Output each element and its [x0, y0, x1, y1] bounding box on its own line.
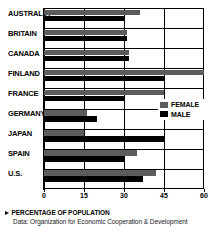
bar-male-spain	[44, 156, 124, 161]
x-tick-label-15: 15	[80, 192, 88, 199]
bar-male-britain	[44, 36, 127, 41]
bar-female-australia	[44, 10, 140, 15]
x-tick-label-0: 0	[42, 192, 46, 199]
row-separator	[44, 28, 204, 29]
chart-footer: PERCENTAGE OF POPULATION Data: Organizat…	[5, 209, 215, 225]
row-separator	[44, 129, 204, 130]
bar-row: SPAIN	[6, 149, 204, 169]
x-tick-label-60: 60	[200, 192, 208, 199]
axis-caption-text: PERCENTAGE OF POPULATION	[12, 209, 110, 216]
chart-legend: FEMALE MALE	[158, 99, 206, 120]
row-separator	[44, 149, 204, 150]
legend-item-male[interactable]: MALE	[160, 110, 206, 119]
bar-male-finland	[44, 76, 164, 81]
axis-caption-row: PERCENTAGE OF POPULATION	[5, 209, 215, 216]
row-separator	[44, 48, 204, 49]
plot-area: AUSTRALIABRITAINCANADAFINLANDFRANCEGERMA…	[6, 8, 204, 189]
bar-row: JAPAN	[6, 129, 204, 149]
category-label-france: FRANCE	[8, 89, 38, 98]
legend-label-male: MALE	[171, 111, 190, 118]
bar-male-canada	[44, 56, 129, 61]
male-swatch-icon	[160, 111, 168, 117]
caret-right-icon	[5, 211, 9, 215]
bar-female-france	[44, 90, 164, 95]
bar-female-canada	[44, 50, 129, 55]
bar-female-spain	[44, 150, 137, 155]
x-axis: 015304560	[6, 189, 204, 203]
legend-item-female[interactable]: FEMALE	[160, 100, 206, 109]
bar-row: U.S.	[6, 169, 204, 189]
x-tick-label-45: 45	[160, 192, 168, 199]
category-label-germany: GERMANY	[8, 109, 45, 118]
bar-row: BRITAIN	[6, 28, 204, 48]
bar-female-us	[44, 170, 156, 175]
bar-row: AUSTRALIA	[6, 8, 204, 28]
row-separator	[44, 88, 204, 89]
chart-container: AUSTRALIABRITAINCANADAFINLANDFRANCEGERMA…	[0, 0, 216, 232]
legend-label-female: FEMALE	[171, 101, 199, 108]
x-tick-label-30: 30	[120, 192, 128, 199]
category-label-canada: CANADA	[8, 49, 40, 58]
category-label-spain: SPAIN	[8, 149, 30, 158]
bar-male-japan	[44, 136, 164, 141]
bar-female-germany	[44, 110, 87, 115]
chart-title	[0, 0, 216, 2]
category-label-britain: BRITAIN	[8, 29, 37, 38]
source-text: Data: Organization for Economic Cooperat…	[13, 218, 215, 225]
bar-male-us	[44, 176, 143, 181]
category-label-finland: FINLAND	[8, 69, 40, 78]
category-label-japan: JAPAN	[8, 129, 32, 138]
bar-female-finland	[44, 70, 204, 75]
bar-male-france	[44, 96, 124, 101]
bar-male-australia	[44, 16, 124, 21]
bar-row: CANADA	[6, 48, 204, 68]
bar-female-japan	[44, 130, 84, 135]
row-separator	[44, 169, 204, 170]
bar-row: FINLAND	[6, 68, 204, 88]
female-swatch-icon	[160, 102, 168, 108]
bar-female-britain	[44, 30, 127, 35]
row-separator	[44, 68, 204, 69]
category-label-us: U.S.	[8, 169, 22, 178]
bar-male-germany	[44, 116, 97, 121]
